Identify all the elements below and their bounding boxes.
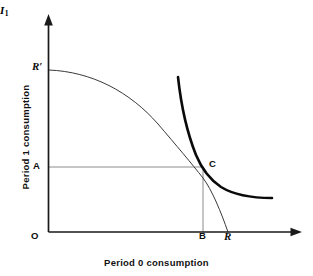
indifference-curve-index: 1 <box>5 9 9 18</box>
x-axis-arrowhead <box>291 228 303 237</box>
label-origin: O <box>31 231 38 241</box>
indifference-curve-I1 <box>178 77 272 198</box>
transformation-curve <box>49 70 229 232</box>
economics-diagram: R′ A O B R C I1 Period 0 consumption Per… <box>0 0 313 276</box>
y-axis-arrowhead <box>44 14 53 26</box>
y-axis-title: Period 1 consumption <box>21 47 31 227</box>
label-r: R <box>224 231 231 242</box>
label-b: B <box>199 231 206 241</box>
x-axis-title: Period 0 consumption <box>0 258 313 268</box>
label-c: C <box>209 159 216 169</box>
plot-canvas <box>0 0 313 276</box>
y-axis-title-wrapper: Period 1 consumption <box>21 47 35 227</box>
